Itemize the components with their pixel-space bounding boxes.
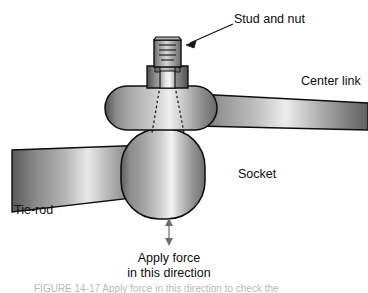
label-socket: Socket (238, 167, 277, 181)
label-apply-force-line2: in this direction (127, 266, 210, 280)
stud-bore (160, 71, 175, 88)
diagram-root: Stud and nut Center link Socket Tie-rod … (0, 0, 368, 293)
nut-top-chamfer (154, 37, 181, 40)
center-link-arm-shape (196, 94, 368, 130)
socket-shape (121, 129, 205, 219)
force-arrow (165, 218, 173, 246)
force-arrow-head-down (165, 238, 173, 246)
center-link-body (105, 86, 217, 130)
label-tie-rod: Tie-rod (14, 203, 53, 217)
stud-and-nut-assembly (147, 37, 188, 88)
technical-diagram-canvas: Stud and nut Center link Socket Tie-rod … (0, 0, 368, 293)
center-link-arm (196, 94, 368, 130)
stud-pointer-arrow (186, 24, 233, 48)
nut-body (154, 40, 181, 67)
label-center-link: Center link (301, 74, 361, 88)
label-stud-and-nut: Stud and nut (234, 12, 305, 26)
figure-caption: FIGURE 14-17 Apply force in this directi… (34, 283, 279, 293)
stud-pointer-line (190, 24, 233, 43)
socket-body (121, 129, 205, 219)
center-link-shape (105, 86, 217, 130)
label-apply-force-line1: Apply force (138, 251, 201, 265)
